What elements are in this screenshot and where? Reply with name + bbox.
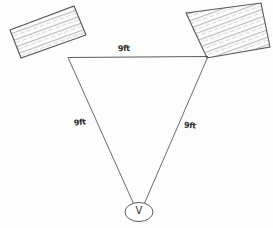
hatched-rectangle-left [10, 6, 86, 58]
side-top [68, 57, 208, 58]
side-left [68, 58, 136, 210]
vertex-label: V [132, 206, 146, 216]
diagram-drawing [0, 0, 273, 228]
diagram-canvas: 9ft 9ft 9ft V [0, 0, 273, 228]
dimension-label-left: 9ft [74, 118, 87, 127]
side-right [142, 57, 208, 210]
hatched-rectangle-right [186, 3, 270, 58]
triangle-sides [68, 57, 208, 210]
dimension-label-right: 9ft [184, 121, 196, 130]
dimension-label-top: 9ft [118, 45, 130, 53]
